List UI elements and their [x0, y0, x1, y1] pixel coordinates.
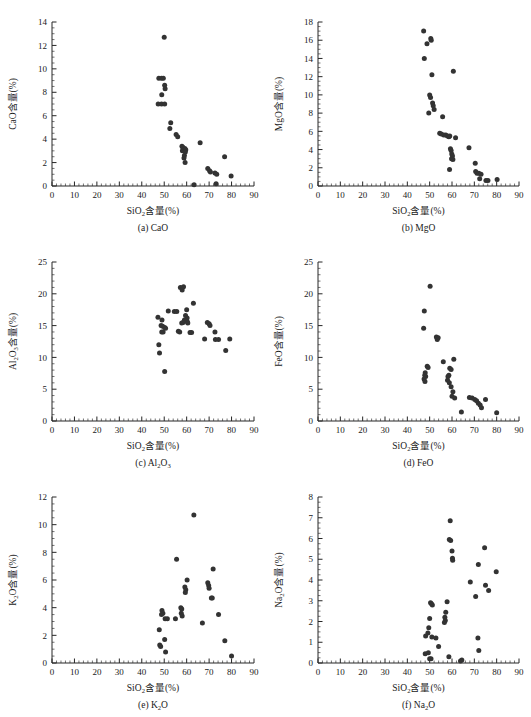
panel-caption: (e) K2O	[138, 700, 168, 711]
data-point	[167, 126, 172, 131]
x-tick-label: 40	[403, 190, 413, 200]
x-axis-title: SiO2含量(%)	[392, 440, 444, 452]
y-tick-label: 18	[304, 17, 314, 27]
data-point	[494, 410, 499, 415]
panel-caption: (f) Na2O	[402, 700, 435, 711]
x-tick-label: 90	[515, 425, 525, 435]
data-points-group	[423, 518, 499, 663]
x-tick-label: 0	[316, 667, 321, 677]
y-tick-label: 4	[43, 603, 48, 613]
x-tick-label: 40	[137, 190, 147, 200]
y-tick-label: 0	[43, 658, 48, 668]
y-tick-label: 2	[309, 617, 314, 627]
data-point	[162, 369, 167, 374]
x-tick-label: 30	[381, 667, 391, 677]
y-tick-label: 6	[43, 111, 48, 121]
axis-lines	[318, 262, 519, 421]
y-tick-label: 10	[38, 520, 48, 530]
data-point	[162, 102, 167, 107]
data-point	[483, 397, 488, 402]
data-point	[210, 595, 215, 600]
data-point	[183, 160, 188, 165]
data-point	[447, 167, 452, 172]
panel-e-k2o: 0102030405060708090024681012SiO2含量(%)K2O…	[0, 475, 266, 717]
x-tick-label: 70	[470, 425, 480, 435]
data-point	[166, 308, 171, 313]
x-tick-label: 20	[358, 190, 368, 200]
x-tick-label: 20	[92, 667, 102, 677]
data-point	[229, 654, 234, 659]
data-point	[429, 656, 434, 661]
data-point	[229, 174, 234, 179]
panel-a-svg: 010203040506070809002468101214SiO2含量(%)C…	[0, 0, 266, 240]
y-axis-title: K2O含量(%)	[7, 554, 19, 605]
x-tick-label: 10	[70, 667, 80, 677]
y-tick-label: 25	[304, 257, 314, 267]
data-point	[466, 145, 471, 150]
y-tick-label: 15	[304, 321, 314, 331]
x-tick-label: 40	[137, 425, 147, 435]
panel-d-feo: 01020304050607080900510152025SiO2含量(%)Fe…	[266, 240, 531, 475]
data-point	[198, 140, 203, 145]
data-points-group	[421, 284, 499, 416]
y-axis-title: FeO含量(%)	[273, 316, 285, 367]
data-point	[482, 545, 487, 550]
y-tick-label: 16	[304, 35, 314, 45]
data-points-group	[156, 35, 234, 188]
x-tick-label: 10	[70, 190, 80, 200]
data-point	[450, 389, 455, 394]
data-point	[450, 558, 455, 563]
data-point	[450, 548, 455, 553]
x-tick-label: 20	[92, 190, 102, 200]
y-tick-label: 25	[38, 257, 48, 267]
x-tick-label: 90	[250, 190, 260, 200]
y-axis-title: Al2O3含量(%)	[7, 313, 19, 370]
data-point	[222, 638, 227, 643]
data-point	[163, 86, 168, 91]
data-point	[208, 169, 213, 174]
data-point	[161, 329, 166, 334]
data-point	[473, 594, 478, 599]
x-tick-label: 30	[381, 190, 391, 200]
x-tick-label: 40	[137, 667, 147, 677]
data-point	[421, 326, 426, 331]
y-tick-label: 8	[309, 492, 314, 502]
y-tick-label: 1	[309, 637, 314, 647]
x-tick-label: 30	[381, 425, 391, 435]
x-tick-label: 90	[250, 425, 260, 435]
x-tick-label: 70	[470, 190, 480, 200]
panel-e-svg: 0102030405060708090024681012SiO2含量(%)K2O…	[0, 475, 266, 717]
y-tick-label: 2	[309, 163, 314, 173]
axis-lines	[52, 497, 254, 663]
data-point	[436, 644, 441, 649]
x-tick-label: 70	[205, 190, 215, 200]
data-point	[175, 134, 180, 139]
y-tick-label: 12	[38, 492, 47, 502]
data-point	[429, 72, 434, 77]
data-points-group	[155, 284, 232, 374]
panel-a-cao: 010203040506070809002468101214SiO2含量(%)C…	[0, 0, 266, 240]
y-tick-label: 14	[38, 17, 48, 27]
panel-f-svg: 0102030405060708090012345678SiO2含量(%)Na2…	[266, 475, 531, 717]
data-point	[181, 320, 186, 325]
x-tick-label: 30	[115, 667, 125, 677]
data-point	[443, 610, 448, 615]
y-tick-label: 20	[304, 289, 314, 299]
data-point	[208, 323, 213, 328]
x-tick-label: 30	[115, 425, 125, 435]
data-point	[222, 154, 227, 159]
data-point	[177, 329, 182, 334]
data-point	[180, 287, 185, 292]
data-point	[445, 599, 450, 604]
y-tick-label: 8	[43, 548, 48, 558]
x-tick-label: 90	[515, 667, 525, 677]
data-point	[216, 337, 221, 342]
data-point	[495, 177, 500, 182]
y-axis-title: MgO含量(%)	[273, 77, 285, 131]
x-axis-title: SiO2含量(%)	[127, 205, 179, 217]
y-tick-label: 10	[304, 90, 314, 100]
data-point	[422, 56, 427, 61]
x-tick-label: 40	[403, 667, 413, 677]
x-tick-label: 80	[227, 190, 237, 200]
data-point	[476, 562, 481, 567]
